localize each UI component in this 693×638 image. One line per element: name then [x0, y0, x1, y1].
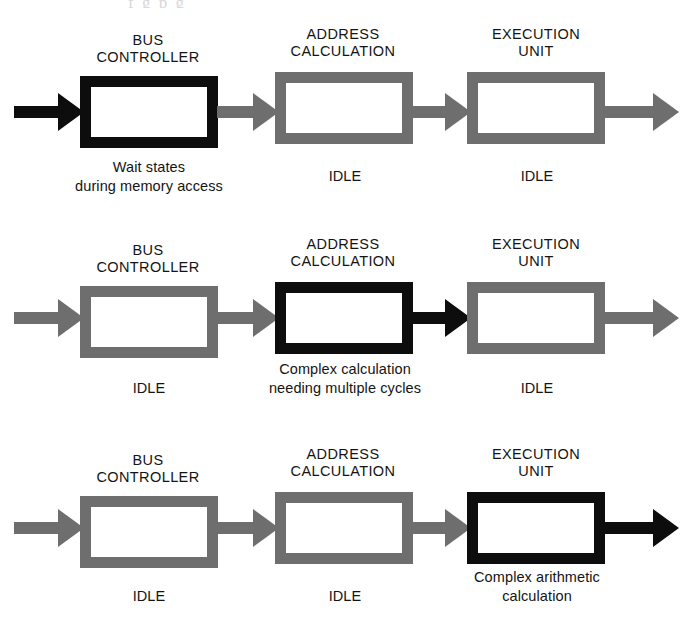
stage-box-bus-controller[interactable] [80, 496, 218, 568]
pipeline-row-bus-controller-busy: BUS CONTROLLER Wait states during memory… [0, 8, 693, 218]
stage-box-address-calculation[interactable] [275, 282, 413, 354]
arrow-head [653, 299, 679, 337]
pipeline-row-execution-unit-busy: BUS CONTROLLER IDLE ADDRESS CALCULATION … [0, 428, 693, 638]
stage-title-execution-unit: EXECUTION UNIT [446, 26, 626, 60]
arrow-shaft [14, 106, 62, 118]
arrow-shaft [14, 312, 62, 324]
stage-title-bus-controller: BUS CONTROLLER [58, 242, 238, 276]
arrow-shaft [14, 522, 62, 534]
stage-box-bus-controller[interactable] [80, 76, 218, 148]
arrow-address-to-execution [410, 93, 471, 131]
stage-box-execution-unit[interactable] [467, 492, 605, 564]
stage-caption-execution-unit: Complex arithmetic calculation [417, 568, 657, 606]
arrow-shaft [601, 312, 657, 324]
diagram-page: f g p g BUS CONTROLLER Wait states durin… [0, 0, 693, 638]
output-arrow [601, 93, 679, 131]
arrow-bus-to-address [217, 299, 279, 337]
stage-box-bus-controller[interactable] [80, 286, 218, 358]
arrow-shaft [217, 106, 257, 118]
page-top-text-artifact: f g p g [0, 0, 693, 8]
arrow-address-to-execution [410, 509, 471, 547]
stage-title-address-calculation: ADDRESS CALCULATION [253, 26, 433, 60]
arrow-shaft [410, 106, 449, 118]
stage-caption-execution-unit: IDLE [417, 167, 657, 186]
input-arrow [14, 509, 84, 547]
arrow-shaft [601, 106, 657, 118]
output-arrow [601, 299, 679, 337]
arrow-shaft [217, 312, 257, 324]
stage-title-execution-unit: EXECUTION UNIT [446, 446, 626, 480]
arrow-shaft [410, 312, 449, 324]
stage-box-execution-unit[interactable] [467, 282, 605, 354]
stage-title-bus-controller: BUS CONTROLLER [58, 32, 238, 66]
stage-title-bus-controller: BUS CONTROLLER [58, 452, 238, 486]
arrow-shaft [601, 522, 657, 534]
arrow-bus-to-address [217, 509, 279, 547]
arrow-head [653, 93, 679, 131]
input-arrow [14, 93, 84, 131]
output-arrow [601, 509, 679, 547]
arrow-shaft [410, 522, 449, 534]
arrow-head [653, 509, 679, 547]
stage-box-address-calculation[interactable] [275, 72, 413, 144]
arrow-shaft [217, 522, 257, 534]
stage-title-address-calculation: ADDRESS CALCULATION [253, 236, 433, 270]
arrow-address-to-execution [410, 299, 471, 337]
stage-caption-execution-unit: IDLE [417, 379, 657, 398]
stage-box-address-calculation[interactable] [275, 492, 413, 564]
stage-title-address-calculation: ADDRESS CALCULATION [253, 446, 433, 480]
pipeline-row-address-calculation-busy: BUS CONTROLLER IDLE ADDRESS CALCULATION … [0, 218, 693, 428]
stage-box-execution-unit[interactable] [467, 72, 605, 144]
arrow-bus-to-address [217, 93, 279, 131]
input-arrow [14, 299, 84, 337]
stage-title-execution-unit: EXECUTION UNIT [446, 236, 626, 270]
